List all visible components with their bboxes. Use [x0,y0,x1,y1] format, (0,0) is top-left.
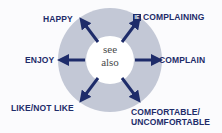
link-complaining[interactable]: IECOMPLAINING [133,12,205,22]
arrow-comfortable-icon [122,78,137,98]
link-happy[interactable]: HAPPY [43,14,73,24]
arrow-like-icon [83,78,98,98]
link-like-not-like[interactable]: LIKE/NOT LIKE [11,103,74,113]
link-complaining-label: COMPLAINING [143,12,205,22]
link-comfortable-line1: COMFORTABLE/ [131,107,210,117]
link-complain[interactable]: COMPLAIN [159,55,205,65]
link-enjoy[interactable]: ENJOY [25,55,54,65]
ie-badge-icon: IE [133,14,141,21]
link-comfortable[interactable]: COMFORTABLE/ UNCOMFORTABLE [131,107,210,127]
link-comfortable-line2: UNCOMFORTABLE [131,117,210,127]
arrow-happy-icon [83,22,98,42]
arrow-complaining-icon [122,22,137,42]
